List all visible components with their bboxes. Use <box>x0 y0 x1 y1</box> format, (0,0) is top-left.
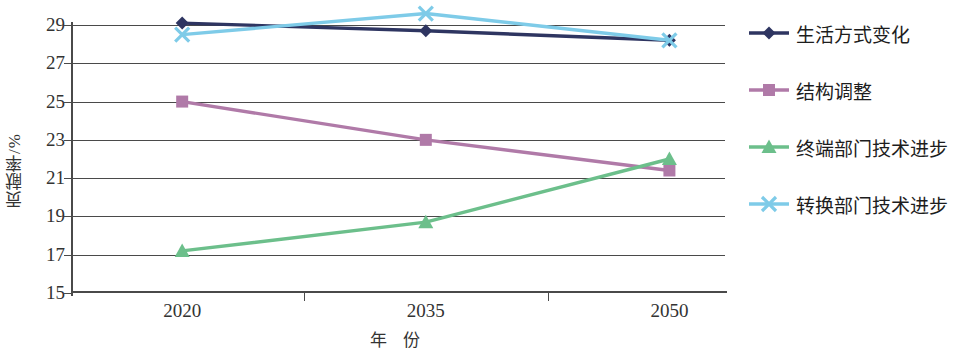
legend-marker-icon <box>748 136 790 158</box>
data-point-marker <box>176 17 189 30</box>
legend-item-label: 结构调整 <box>796 77 872 104</box>
legend-item-label: 终端部门技术进步 <box>796 134 948 161</box>
y-axis-tick <box>64 293 72 294</box>
x-axis-tick-label: 2020 <box>122 300 242 322</box>
y-axis-tick-label: 27 <box>25 53 65 72</box>
plot-area <box>71 25 725 293</box>
series-2 <box>176 96 675 177</box>
y-axis-tick-label: 15 <box>25 283 65 302</box>
data-point-marker <box>662 152 677 166</box>
legend-item-3[interactable]: 终端部门技术进步 <box>748 134 948 160</box>
legend-marker-icon <box>748 193 790 215</box>
data-point-marker <box>419 24 432 37</box>
y-axis-tick-label: 23 <box>25 130 65 149</box>
y-axis-tick-label: 19 <box>25 206 65 225</box>
data-point-marker <box>663 164 675 176</box>
y-axis-tick-label: 25 <box>25 92 65 111</box>
x-axis-tick-label: 2035 <box>366 300 486 322</box>
x-axis-tick-label: 2050 <box>609 300 729 322</box>
y-axis-tick-label: 29 <box>25 15 65 34</box>
series-3 <box>175 152 677 257</box>
chart-legend: 生活方式变化结构调整终端部门技术进步转换部门技术进步 <box>748 20 953 250</box>
series-line <box>182 159 669 251</box>
chart-figure: 贡献率/% 2927252321191715 202020352050 年 份 … <box>0 0 955 351</box>
data-point-marker <box>420 134 432 146</box>
legend-marker-icon <box>748 79 790 101</box>
legend-item-4[interactable]: 转换部门技术进步 <box>748 191 948 217</box>
x-axis-tick <box>548 292 549 301</box>
data-point-marker <box>176 96 188 108</box>
legend-item-label: 生活方式变化 <box>796 20 910 47</box>
data-series-layer <box>71 25 725 293</box>
legend-marker-icon <box>748 22 790 44</box>
y-axis-tick-label: 21 <box>25 168 65 187</box>
x-axis-tick <box>304 292 305 301</box>
y-axis-tick-label: 17 <box>25 245 65 264</box>
y-axis-tick-labels: 2927252321191715 <box>20 25 65 295</box>
x-axis-title: 年 份 <box>71 326 725 351</box>
legend-item-label: 转换部门技术进步 <box>796 191 948 218</box>
legend-item-2[interactable]: 结构调整 <box>748 77 872 103</box>
legend-item-1[interactable]: 生活方式变化 <box>748 20 910 46</box>
